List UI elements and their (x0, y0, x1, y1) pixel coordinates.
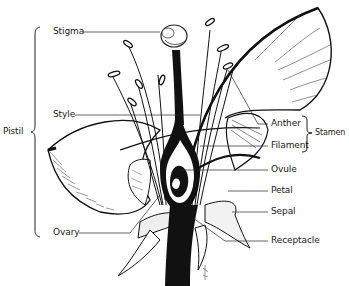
pistil-brace (31, 27, 40, 237)
stem (165, 205, 198, 286)
label-receptacle: Receptacle (271, 236, 320, 245)
label-petal: Petal (271, 186, 293, 195)
flower-diagram: Stigma Style Ovary Pistil Anther Filamen… (0, 0, 349, 286)
artist-signature (203, 265, 208, 280)
stigma-shape (161, 25, 187, 47)
style-shape (172, 50, 184, 125)
label-ovule: Ovule (271, 165, 297, 174)
label-style: Style (53, 110, 75, 119)
label-pistil: Pistil (3, 127, 23, 136)
petal-right-mid (226, 113, 268, 170)
label-stigma: Stigma (53, 27, 84, 36)
label-anther: Anther (271, 119, 301, 128)
label-sepal: Sepal (271, 207, 295, 216)
label-filament: Filament (271, 141, 309, 150)
label-ovary: Ovary (53, 228, 79, 237)
label-stamen: Stamen (315, 129, 345, 137)
